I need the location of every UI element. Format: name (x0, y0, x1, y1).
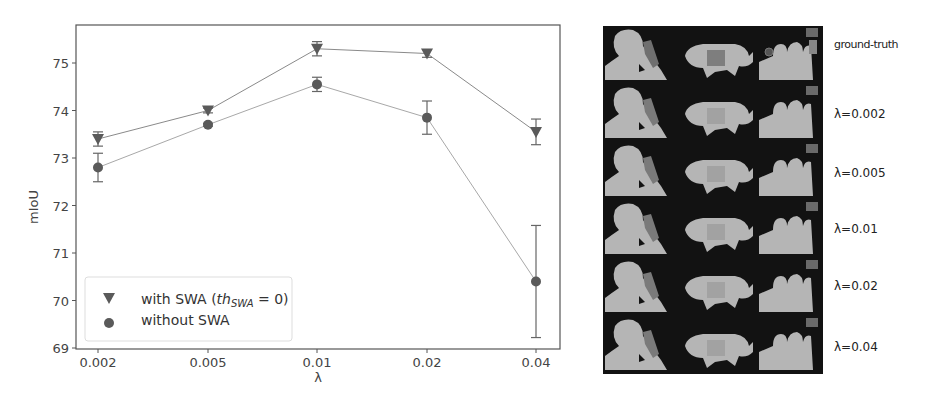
circle-marker (312, 79, 322, 89)
segmentation-masks (603, 26, 823, 374)
segmentation-grid (603, 26, 823, 374)
y-tick-label: 72 (52, 199, 69, 214)
line-chart: 697071727374750.0020.0050.010.020.04λmIo… (0, 0, 590, 406)
x-tick-label: 0.01 (303, 355, 332, 370)
person-mask (605, 30, 667, 80)
legend-label: with SWA (thSWA = 0) (141, 291, 289, 309)
y-tick-label: 74 (52, 104, 69, 119)
row-label-lambda-0002: λ=0.002 (834, 107, 886, 121)
person-mask (605, 88, 667, 138)
row-label-lambda-0005: λ=0.005 (834, 166, 886, 180)
crowd-mask (759, 216, 813, 254)
person-mask (605, 204, 667, 254)
row-label-lambda-001: λ=0.01 (834, 222, 878, 236)
y-tick-label: 71 (52, 246, 69, 261)
crowd-mask (759, 42, 813, 80)
circle-marker (203, 120, 213, 130)
y-tick-label: 73 (52, 151, 69, 166)
crowd-mask (759, 158, 813, 196)
x-tick-label: 0.005 (189, 355, 226, 370)
x-tick-label: 0.002 (79, 355, 116, 370)
person-mask (605, 320, 667, 370)
y-tick-label: 70 (52, 294, 69, 309)
x-tick-label: 0.02 (413, 355, 442, 370)
legend: with SWA (thSWA = 0)without SWA (85, 277, 292, 341)
crowd-mask (759, 100, 813, 138)
y-tick-label: 75 (52, 56, 69, 71)
y-axis-label: mIoU (26, 190, 41, 224)
legend-circle-icon (104, 318, 114, 328)
row-label-lambda-004: λ=0.04 (834, 340, 878, 354)
circle-marker (93, 163, 103, 173)
circle-marker (531, 277, 541, 287)
row-label-lambda-002: λ=0.02 (834, 279, 878, 293)
row-label-ground-truth: ground-truth (834, 38, 898, 51)
y-tick-label: 69 (52, 341, 69, 356)
circle-marker (422, 113, 432, 123)
legend-label: without SWA (141, 312, 230, 328)
crowd-mask (759, 332, 813, 370)
x-axis-label: λ (314, 370, 322, 385)
person-mask (605, 262, 667, 312)
person-mask (605, 146, 667, 196)
x-tick-label: 0.04 (522, 355, 551, 370)
crowd-mask (759, 274, 813, 312)
